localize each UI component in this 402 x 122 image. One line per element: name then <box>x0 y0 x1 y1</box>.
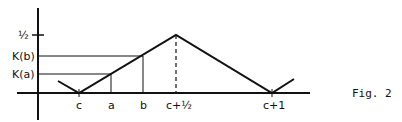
label-c-half: c+½ <box>166 99 192 112</box>
label-c: c <box>76 99 82 112</box>
label-kb: K(b) <box>12 50 35 63</box>
figure-caption: Fig. 2 <box>352 87 392 100</box>
label-half: ½ <box>18 29 29 42</box>
label-ka: K(a) <box>12 68 35 81</box>
label-c-plus-1: c+1 <box>263 99 285 112</box>
figure-diagram: ½ K(b) K(a) c a b c+½ c+1 Fig. 2 <box>0 0 402 122</box>
label-a: a <box>108 99 115 112</box>
label-b: b <box>140 99 147 112</box>
